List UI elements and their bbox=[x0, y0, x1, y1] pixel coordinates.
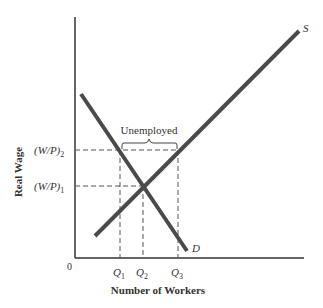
unemployed-label: Unemployed bbox=[121, 124, 178, 136]
demand-curve bbox=[81, 94, 187, 251]
unemployed-brace bbox=[122, 139, 177, 149]
x-axis-label: Number of Workers bbox=[111, 284, 206, 296]
labor-market-diagram: S D Unemployed (W/P)2 (W/P)1 Real Wage 0… bbox=[0, 0, 323, 308]
y-tick-wp2: (W/P)2 bbox=[34, 144, 64, 159]
x-tick-q2: Q2 bbox=[136, 266, 148, 281]
x-tick-q3: Q3 bbox=[171, 266, 183, 281]
y-tick-wp1: (W/P)1 bbox=[34, 180, 64, 195]
demand-label: D bbox=[191, 242, 200, 254]
y-axis-label: Real Wage bbox=[12, 147, 24, 197]
x-tick-q1: Q1 bbox=[113, 266, 125, 281]
origin-label: 0 bbox=[67, 261, 72, 272]
supply-label: S bbox=[303, 22, 309, 34]
